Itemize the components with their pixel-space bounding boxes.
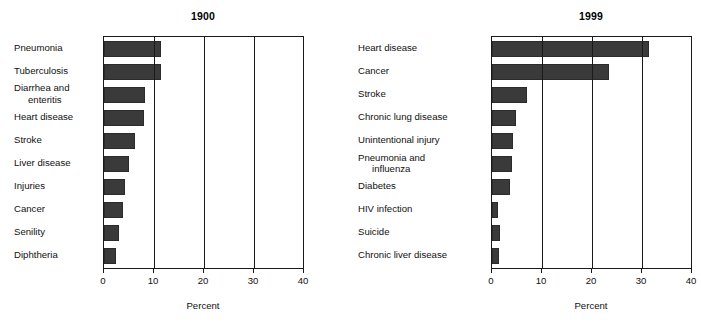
x-tick-label: 40: [288, 275, 318, 286]
category-label-column-1900: PneumoniaTuberculosisDiarrhea andenterit…: [4, 36, 99, 269]
bar: [104, 41, 161, 57]
plot-area-1999: [491, 36, 692, 269]
x-tick: [691, 269, 692, 273]
bar: [104, 87, 145, 103]
category-label: Suicide: [358, 226, 487, 238]
bar: [104, 248, 116, 264]
chart-title-1999: 1999: [491, 10, 691, 22]
category-label: Chronic liver disease: [358, 249, 487, 261]
x-tick-label: 30: [626, 275, 656, 286]
x-tick: [203, 269, 204, 273]
category-label: Tuberculosis: [14, 65, 99, 77]
category-label: Stroke: [14, 134, 99, 146]
x-tick: [103, 269, 104, 273]
x-tick: [491, 269, 492, 273]
category-label: Pneumonia andinfluenza: [358, 152, 487, 175]
category-label: Cancer: [14, 203, 99, 215]
bar: [492, 248, 499, 264]
bar: [492, 41, 649, 57]
bar: [492, 87, 527, 103]
bar: [104, 202, 123, 218]
x-tick-label: 20: [576, 275, 606, 286]
category-label: Liver disease: [14, 157, 99, 169]
x-tick-label: 0: [476, 275, 506, 286]
x-tick: [541, 269, 542, 273]
category-label: Heart disease: [14, 111, 99, 123]
gridline-30: [254, 37, 255, 268]
gridline-20: [204, 37, 205, 268]
bar: [104, 64, 161, 80]
bar: [492, 225, 500, 241]
bar: [104, 156, 129, 172]
gridline-10: [154, 37, 155, 268]
gridline-30: [642, 37, 643, 268]
x-tick: [303, 269, 304, 273]
x-tick: [153, 269, 154, 273]
chart-title-1900: 1900: [103, 10, 303, 22]
bar: [492, 179, 510, 195]
category-label: Diarrhea andenteritis: [14, 82, 99, 105]
x-axis-title-1999: Percent: [531, 300, 651, 311]
chart-panel-1999: 1999 Heart diseaseCancerStrokeChronic lu…: [348, 0, 696, 334]
bar: [492, 156, 512, 172]
category-label: Heart disease: [358, 42, 487, 54]
x-tick-label: 30: [238, 275, 268, 286]
bar: [492, 110, 516, 126]
category-label: Diphtheria: [14, 249, 99, 261]
bar: [492, 133, 513, 149]
category-label: Senility: [14, 226, 99, 238]
x-tick: [591, 269, 592, 273]
chart-panel-1900: 1900 PneumoniaTuberculosisDiarrhea anden…: [0, 0, 348, 334]
category-label: Injuries: [14, 180, 99, 192]
x-tick: [641, 269, 642, 273]
x-tick-label: 40: [676, 275, 701, 286]
bar: [104, 179, 125, 195]
x-tick-label: 10: [526, 275, 556, 286]
category-label-column-1999: Heart diseaseCancerStrokeChronic lung di…: [352, 36, 487, 269]
x-axis-title-1900: Percent: [143, 300, 263, 311]
bar: [104, 110, 144, 126]
category-label: Cancer: [358, 65, 487, 77]
gridline-20: [592, 37, 593, 268]
category-label: Pneumonia: [14, 42, 99, 54]
bar: [492, 202, 498, 218]
category-label: Chronic lung disease: [358, 111, 487, 123]
plot-area-1900: [103, 36, 304, 269]
x-tick-label: 0: [88, 275, 118, 286]
category-label: Unintentional injury: [358, 134, 487, 146]
category-label: Diabetes: [358, 180, 487, 192]
category-label: Stroke: [358, 88, 487, 100]
bar: [104, 133, 135, 149]
x-tick-label: 10: [138, 275, 168, 286]
x-tick: [253, 269, 254, 273]
x-tick-label: 20: [188, 275, 218, 286]
bar: [104, 225, 119, 241]
gridline-10: [542, 37, 543, 268]
category-label: HIV infection: [358, 203, 487, 215]
